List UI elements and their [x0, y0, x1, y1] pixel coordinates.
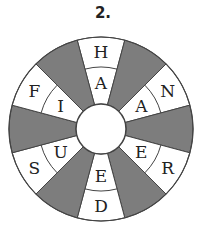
inner-letter: A [134, 96, 148, 116]
inner-letter: E [135, 142, 147, 162]
center-hub [76, 104, 126, 154]
outer-letter: F [28, 81, 40, 101]
outer-letter: H [94, 42, 109, 62]
outer-letter: R [161, 158, 175, 178]
inner-letter: E [95, 166, 107, 186]
letter-wheel: HANAREDESUFI [0, 0, 206, 234]
outer-letter: S [28, 158, 40, 178]
inner-letter: A [94, 73, 108, 93]
inner-letter: U [54, 142, 68, 162]
inner-letter: I [57, 96, 64, 116]
outer-letter: D [94, 196, 108, 216]
outer-letter: N [160, 81, 175, 101]
